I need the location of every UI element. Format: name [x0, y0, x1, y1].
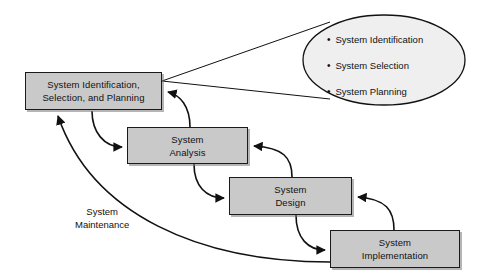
callout-bullet-item-1-label: System Identification [336, 33, 424, 46]
callout-leader-line-bottom [162, 81, 330, 99]
node-system-analysis-label: System Analysis [166, 133, 208, 159]
edge-design-to-implementation [296, 215, 325, 250]
node-system-identification-label: System Identification, Selection, and Pl… [39, 78, 147, 104]
callout-bullet-list: • System Identification • System Selecti… [327, 33, 423, 98]
diagram-canvas: System Identification, Selection, and Pl… [0, 0, 488, 277]
edge-analysis-to-identification [168, 92, 190, 127]
edge-implementation-to-design [358, 197, 394, 230]
node-system-implementation-label: System Implementation [359, 236, 431, 262]
node-system-identification[interactable]: System Identification, Selection, and Pl… [25, 72, 162, 110]
edge-identification-to-analysis [92, 111, 122, 147]
bullet-icon: • [327, 85, 331, 98]
node-system-analysis[interactable]: System Analysis [127, 127, 248, 164]
callout-bullet-item-3: • System Planning [327, 85, 423, 98]
node-system-design[interactable]: System Design [229, 177, 352, 215]
edge-analysis-to-design [194, 164, 224, 198]
edge-design-to-analysis [254, 146, 292, 177]
callout-bullet-item-2-label: System Selection [336, 59, 409, 72]
node-system-design-label: System Design [271, 183, 309, 209]
bullet-icon: • [327, 33, 331, 46]
callout-bullet-item-1: • System Identification [327, 33, 423, 46]
callout-bullet-item-3-label: System Planning [336, 85, 407, 98]
bullet-icon: • [327, 59, 331, 72]
edge-label-system-maintenance: System Maintenance [75, 205, 129, 231]
callout-bullet-item-2: • System Selection [327, 59, 423, 72]
node-system-implementation[interactable]: System Implementation [330, 230, 460, 268]
